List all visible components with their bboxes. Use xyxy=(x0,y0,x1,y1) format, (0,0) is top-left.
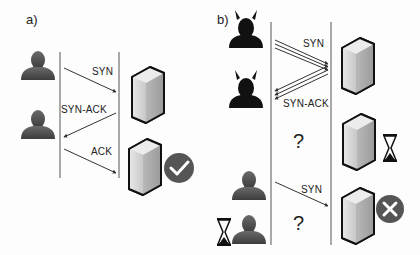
syn-label: SYN xyxy=(92,66,113,77)
check-circle-icon xyxy=(164,153,194,183)
attacker-icon xyxy=(229,10,263,48)
attacker-icon xyxy=(229,70,263,108)
server-icon xyxy=(342,38,374,94)
panel-a-label: a) xyxy=(26,12,38,27)
user-icon xyxy=(21,110,55,139)
server-icon xyxy=(132,67,164,123)
syn-label: SYN xyxy=(301,184,322,195)
hourglass-icon xyxy=(383,135,397,161)
syn-ack-flood-arrows xyxy=(275,66,328,99)
hourglass-icon xyxy=(217,219,231,245)
user-icon xyxy=(21,51,55,80)
syn-label: SYN xyxy=(303,38,324,49)
unknown-response-label: ? xyxy=(293,212,304,235)
unknown-response-label: ? xyxy=(293,130,304,153)
server-icon xyxy=(129,139,161,195)
syn-ack-arrow xyxy=(64,113,116,137)
server-icon xyxy=(343,114,375,170)
x-circle-icon xyxy=(376,195,404,223)
user-icon xyxy=(232,171,266,200)
user-icon xyxy=(232,215,266,244)
ack-label: ACK xyxy=(91,146,112,157)
syn-ack-label: SYN-ACK xyxy=(283,98,329,109)
syn-ack-label: SYN-ACK xyxy=(61,104,107,115)
server-icon xyxy=(342,188,374,244)
panel-b-label: b) xyxy=(217,12,229,27)
